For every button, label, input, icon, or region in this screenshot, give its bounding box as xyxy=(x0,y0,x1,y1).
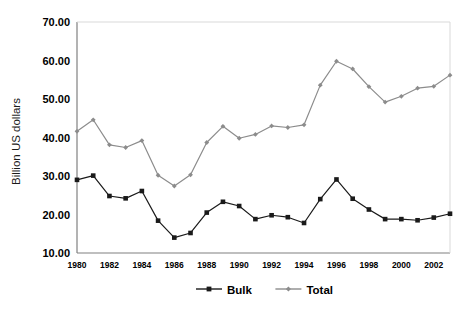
data-point xyxy=(237,204,242,209)
line-chart: 70.0060.0050.0040.0030.0020.0010.00 1980… xyxy=(0,0,472,313)
x-tick-label: 2002 xyxy=(424,260,443,270)
data-point xyxy=(399,217,404,222)
x-tick-label: 1984 xyxy=(132,260,151,270)
data-point xyxy=(350,196,355,201)
data-point xyxy=(91,173,96,178)
data-point xyxy=(334,177,339,182)
data-point xyxy=(140,189,145,194)
x-tick-label: 1986 xyxy=(165,260,184,270)
y-axis-title: Billion US dollars xyxy=(10,98,22,185)
x-tick-label: 1998 xyxy=(359,260,378,270)
data-point xyxy=(123,196,128,201)
data-point xyxy=(172,235,177,240)
data-point xyxy=(286,215,291,220)
legend-label: Bulk xyxy=(227,284,253,296)
data-point xyxy=(302,221,307,226)
data-point xyxy=(156,218,161,223)
data-point xyxy=(75,178,80,183)
data-point xyxy=(383,217,388,222)
data-point xyxy=(253,217,258,222)
x-tick-label: 1988 xyxy=(197,260,216,270)
y-tick-label: 60.00 xyxy=(42,55,70,67)
data-point xyxy=(204,210,209,215)
data-point xyxy=(367,207,372,212)
y-tick-label: 70.00 xyxy=(42,16,70,28)
x-tick-label: 1994 xyxy=(295,260,314,270)
x-tick-label: 1982 xyxy=(100,260,119,270)
data-point xyxy=(415,218,420,223)
legend-label: Total xyxy=(306,284,333,296)
data-point xyxy=(318,197,323,202)
data-point xyxy=(188,231,193,236)
data-point xyxy=(269,213,274,218)
data-point xyxy=(107,194,112,199)
y-tick-label: 40.00 xyxy=(42,132,70,144)
x-tick-label: 2000 xyxy=(392,260,411,270)
x-tick-label: 1990 xyxy=(230,260,249,270)
data-point xyxy=(221,199,226,204)
x-tick-label: 1996 xyxy=(327,260,346,270)
y-tick-label: 50.00 xyxy=(42,93,70,105)
x-tick-label: 1992 xyxy=(262,260,281,270)
x-tick-label: 1980 xyxy=(68,260,87,270)
y-tick-label: 10.00 xyxy=(42,247,70,259)
y-tick-label: 20.00 xyxy=(42,209,70,221)
chart-container: 70.0060.0050.0040.0030.0020.0010.00 1980… xyxy=(0,0,472,313)
legend-marker xyxy=(207,287,212,292)
data-point xyxy=(448,211,453,216)
data-point xyxy=(431,215,436,220)
y-tick-label: 30.00 xyxy=(42,170,70,182)
